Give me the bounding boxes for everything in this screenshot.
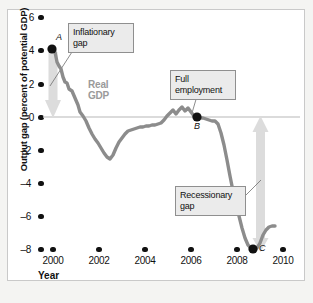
real-gdp-label-line2: GDP bbox=[88, 90, 109, 101]
inflationary-gap-callout: Inflationary gap bbox=[68, 23, 134, 53]
real-gdp-label: Real GDP bbox=[88, 79, 109, 101]
real-gdp-curve bbox=[51, 47, 275, 249]
point-a-marker bbox=[47, 44, 56, 53]
inflationary-gap-line2: gap bbox=[73, 38, 129, 49]
full-employment-callout: Full employment bbox=[170, 70, 236, 100]
point-c-marker bbox=[248, 244, 257, 253]
figure: Output gap (percent of potential GDP) 6 … bbox=[0, 0, 313, 303]
point-c-label: C bbox=[259, 243, 266, 253]
real-gdp-label-line1: Real bbox=[88, 79, 109, 90]
chart-svg bbox=[0, 0, 313, 303]
recessionary-gap-line2: gap bbox=[180, 201, 241, 212]
full-employment-line2: employment bbox=[175, 85, 231, 96]
inflationary-gap-line1: Inflationary bbox=[73, 27, 129, 38]
point-a-label: A bbox=[56, 32, 62, 42]
point-b-label: B bbox=[194, 121, 200, 131]
recessionary-gap-callout: Recessionary gap bbox=[175, 186, 246, 216]
full-employment-line1: Full bbox=[175, 74, 231, 85]
recessionary-gap-line1: Recessionary bbox=[180, 190, 241, 201]
